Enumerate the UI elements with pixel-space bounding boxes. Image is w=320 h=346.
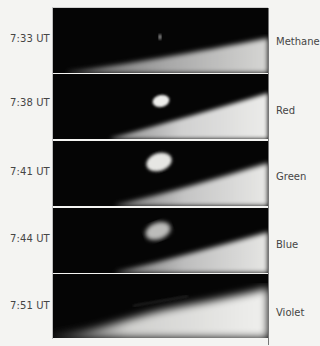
time-label: 7:38 UT: [10, 97, 50, 108]
plume-blob: [144, 149, 174, 174]
image-panel-red: [53, 74, 268, 139]
image-panel-blue: [53, 208, 268, 273]
time-label: 7:44 UT: [10, 233, 50, 244]
right-divider-line: [268, 8, 269, 345]
plume-blob: [151, 93, 170, 108]
filter-label: Green: [276, 171, 306, 182]
plume-blob: [143, 219, 173, 244]
plume-dot: [159, 34, 162, 40]
methane-image: [53, 8, 268, 73]
faint-streak: [133, 296, 188, 306]
blue-image: [53, 208, 268, 273]
time-label: 7:33 UT: [10, 33, 50, 44]
image-panel-green: [53, 141, 268, 206]
time-label: 7:51 UT: [10, 300, 50, 311]
planet-limb: [116, 232, 268, 273]
red-image: [53, 74, 268, 139]
image-panel-methane: [53, 8, 268, 73]
filter-label: Red: [276, 105, 295, 116]
image-panel-violet: [53, 274, 268, 338]
plume-image-sequence-figure: 7:33 UT Methane 7:38 UT Red: [0, 0, 320, 346]
time-label: 7:41 UT: [10, 166, 50, 177]
violet-image: [53, 274, 268, 338]
planet-limb: [111, 93, 268, 139]
filter-label: Methane: [276, 36, 320, 47]
planet-limb: [116, 163, 268, 206]
planet-limb: [53, 288, 268, 338]
filter-label: Violet: [276, 307, 304, 318]
green-image: [53, 141, 268, 206]
filter-label: Blue: [276, 239, 298, 250]
planet-limb: [68, 38, 268, 73]
